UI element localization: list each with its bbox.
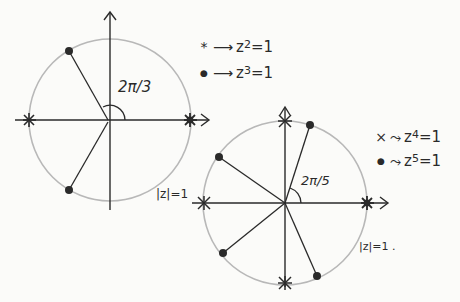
left-star-minus-one-icon <box>23 113 36 127</box>
left-legend-row-squares: * ⟶ z2=1 <box>197 38 273 56</box>
dot-legend-icon: ● <box>374 156 388 166</box>
legend-equation-rhs: =1 <box>419 152 441 170</box>
right-ray-3 <box>223 203 285 253</box>
legend-equation-base: z <box>236 38 244 56</box>
right-dot-1 <box>306 121 314 129</box>
right-dot-2 <box>215 153 223 161</box>
right-star-plus-one-icon <box>361 196 374 210</box>
squiggle-arrow-icon: ⤳ <box>390 153 401 170</box>
cross-legend-icon: × <box>374 129 388 145</box>
right-angle-label: 2π/5 <box>301 173 330 188</box>
left-ray-lower <box>69 122 108 190</box>
right-circle-label: |z|=1 . <box>359 240 395 253</box>
legend-equation-rhs: =1 <box>419 128 441 146</box>
right-legend-row-fourths: × ⤳ z4=1 <box>374 128 441 146</box>
legend-equation-exponent: 5 <box>412 152 419 165</box>
right-ray-4 <box>285 203 317 276</box>
legend-equation-base: z <box>236 64 244 82</box>
left-dot-upper <box>65 47 73 55</box>
right-ray-1 <box>285 125 310 203</box>
right-angle-arc <box>290 188 301 203</box>
squiggle-arrow-icon: ⟶ <box>213 65 233 81</box>
left-figure <box>15 12 209 210</box>
right-ray-2 <box>219 157 285 203</box>
right-dot-4 <box>313 272 321 280</box>
legend-equation-rhs: =1 <box>251 38 273 56</box>
left-legend-row-cubes: ● ⟶ z3=1 <box>197 64 273 82</box>
squiggle-arrow-icon: ⟶ <box>213 39 233 55</box>
right-legend-row-fifths: ● ⤳ z5=1 <box>374 152 441 170</box>
left-circle-label: |z|=1 <box>156 187 188 201</box>
right-star-minus-i-icon <box>278 276 292 290</box>
left-star-plus-one-icon <box>184 113 197 127</box>
legend-equation-exponent: 4 <box>412 128 419 141</box>
squiggle-arrow-icon: ⤳ <box>390 129 401 146</box>
left-ray-upper <box>69 51 108 120</box>
legend-equation-base: z <box>404 152 412 170</box>
left-dot-lower <box>65 186 73 194</box>
legend-equation-base: z <box>404 128 412 146</box>
legend-equation-exponent: 2 <box>244 38 251 51</box>
legend-equation-rhs: =1 <box>251 64 273 82</box>
left-angle-label: 2π/3 <box>118 78 151 96</box>
right-dot-3 <box>219 249 227 257</box>
legend-equation-exponent: 3 <box>244 64 251 77</box>
dot-legend-icon: ● <box>197 68 211 78</box>
right-figure <box>192 107 388 290</box>
star-legend-icon: * <box>197 39 211 55</box>
